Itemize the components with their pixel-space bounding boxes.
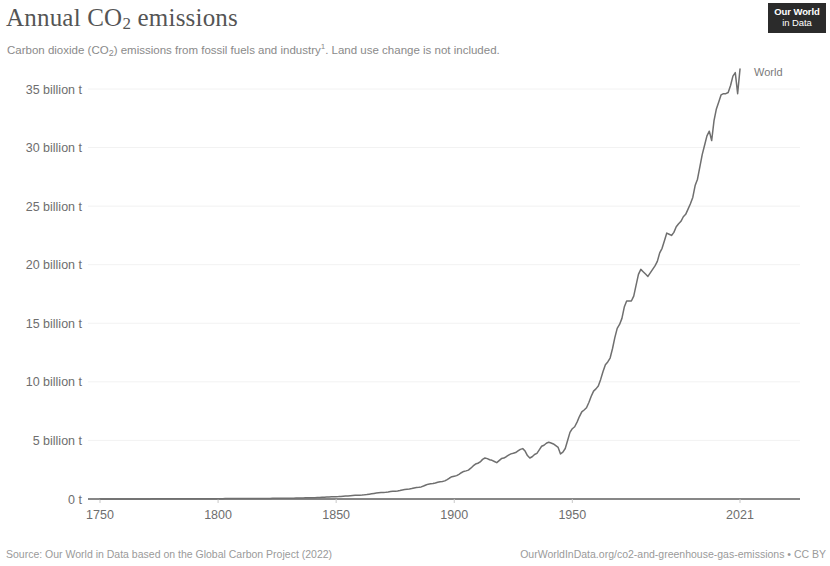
chart-container: Annual CO2 emissions Carbon dioxide (CO2… xyxy=(0,0,830,566)
plot-area: 0 t5 billion t10 billion t15 billion t20… xyxy=(0,0,830,566)
series-end-label: World xyxy=(754,66,783,78)
series-end-label-group: World xyxy=(754,66,783,78)
x-axis-tick-label: 1850 xyxy=(322,508,350,522)
x-axis-tick-labels: 175018001850190019502021 xyxy=(86,508,754,522)
line-chart-svg: 0 t5 billion t10 billion t15 billion t20… xyxy=(0,0,830,566)
y-axis-tick-labels: 0 t5 billion t10 billion t15 billion t20… xyxy=(26,83,83,507)
y-axis-tick-label: 35 billion t xyxy=(26,83,83,97)
x-axis-tick-label: 1800 xyxy=(204,508,232,522)
attribution-link[interactable]: OurWorldInData.org/co2-and-greenhouse-ga… xyxy=(520,548,826,560)
x-axis-tick-label: 1750 xyxy=(86,508,114,522)
y-axis-tick-label: 5 billion t xyxy=(33,434,83,448)
x-axis-tick-label: 2021 xyxy=(726,508,754,522)
x-axis-tick-label: 1900 xyxy=(440,508,468,522)
data-series-group xyxy=(100,69,740,499)
y-axis-tick-label: 10 billion t xyxy=(26,375,83,389)
y-axis-tick-label: 25 billion t xyxy=(26,200,83,214)
y-axis-tick-label: 0 t xyxy=(68,493,82,507)
y-axis-tick-label: 15 billion t xyxy=(26,317,83,331)
y-axis-tick-label: 20 billion t xyxy=(26,258,83,272)
x-axis-line-group xyxy=(88,499,800,503)
chart-footer: Source: Our World in Data based on the G… xyxy=(6,546,826,562)
x-axis-tick-label: 1950 xyxy=(558,508,586,522)
y-axis-tick-label: 30 billion t xyxy=(26,141,83,155)
data-series-line[interactable] xyxy=(100,69,740,499)
source-note: Source: Our World in Data based on the G… xyxy=(6,548,332,560)
gridlines-group xyxy=(88,89,800,440)
